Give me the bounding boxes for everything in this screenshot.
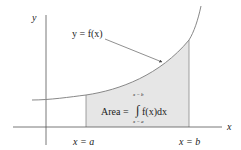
- curve-label: y = f(x): [72, 29, 103, 39]
- integral-upper-limit: x = b: [133, 92, 144, 97]
- upper-bound-label: x = b: [179, 137, 200, 147]
- label-arrow: [105, 39, 162, 62]
- y-axis-label: y: [32, 13, 36, 23]
- lower-bound-label: x = a: [73, 137, 94, 147]
- area-prefix: Area =: [101, 107, 129, 117]
- integral-sign: ∫: [136, 103, 140, 116]
- integral-lower-limit: x = a: [133, 119, 144, 124]
- integrand: f(x)dx: [142, 107, 167, 117]
- integral-diagram: y x y = f(x) Area = ∫ f(x)dx x = b x = a…: [0, 0, 241, 150]
- x-axis-label: x: [227, 122, 231, 132]
